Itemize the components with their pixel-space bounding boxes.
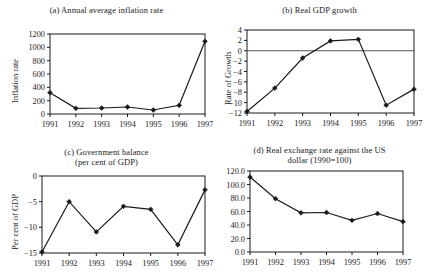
panel-a-inflation-rate: (a) Annual average inflation rate Inflat… bbox=[0, 0, 213, 138]
svg-text:1994: 1994 bbox=[322, 119, 339, 128]
svg-text:400: 400 bbox=[33, 83, 45, 92]
svg-text:−5: −5 bbox=[28, 198, 37, 207]
svg-text:1996: 1996 bbox=[369, 258, 386, 267]
panel-c-plot: −15−10−501991199219931994199519961997 bbox=[0, 138, 213, 276]
svg-text:60.0: 60.0 bbox=[230, 208, 245, 217]
svg-text:1995: 1995 bbox=[145, 120, 162, 129]
svg-text:1993: 1993 bbox=[294, 119, 311, 128]
svg-text:1993: 1993 bbox=[88, 259, 105, 268]
svg-text:1995: 1995 bbox=[350, 119, 367, 128]
svg-text:20.0: 20.0 bbox=[230, 235, 245, 244]
svg-text:−4: −4 bbox=[233, 68, 243, 77]
panel-b-plot: −12−10−8−6−4−202419911992199319941995199… bbox=[213, 0, 426, 138]
svg-text:1991: 1991 bbox=[239, 119, 256, 128]
svg-text:−8: −8 bbox=[233, 88, 242, 97]
svg-text:1993: 1993 bbox=[293, 258, 310, 267]
svg-text:1997: 1997 bbox=[197, 120, 213, 129]
panel-a-plot: 0200400600800100012001991199219931994199… bbox=[0, 0, 213, 138]
svg-text:40.0: 40.0 bbox=[230, 221, 245, 230]
svg-text:1992: 1992 bbox=[267, 258, 284, 267]
svg-text:1991: 1991 bbox=[242, 258, 259, 267]
svg-text:1997: 1997 bbox=[395, 258, 412, 267]
svg-text:1995: 1995 bbox=[142, 259, 159, 268]
svg-text:1997: 1997 bbox=[406, 119, 423, 128]
svg-text:4: 4 bbox=[238, 26, 243, 35]
svg-text:1000: 1000 bbox=[28, 43, 45, 52]
svg-text:0: 0 bbox=[238, 47, 242, 56]
svg-text:−6: −6 bbox=[233, 78, 242, 87]
svg-text:1996: 1996 bbox=[171, 120, 188, 129]
svg-text:200: 200 bbox=[33, 97, 45, 106]
svg-text:0: 0 bbox=[33, 172, 37, 181]
svg-text:1997: 1997 bbox=[197, 259, 213, 268]
svg-text:1991: 1991 bbox=[42, 120, 59, 129]
svg-text:−10: −10 bbox=[24, 223, 37, 232]
svg-text:−12: −12 bbox=[229, 109, 242, 118]
svg-text:80.0: 80.0 bbox=[230, 194, 245, 203]
svg-text:0: 0 bbox=[41, 110, 45, 119]
svg-text:1991: 1991 bbox=[34, 259, 51, 268]
svg-text:1995: 1995 bbox=[344, 258, 361, 267]
multi-panel-figure: (a) Annual average inflation rate Inflat… bbox=[0, 0, 426, 276]
panel-d-real-exchange-rate: (d) Real exchange rate against the US do… bbox=[213, 138, 426, 276]
svg-text:2: 2 bbox=[238, 36, 242, 45]
svg-text:600: 600 bbox=[33, 70, 45, 79]
svg-text:−10: −10 bbox=[229, 99, 242, 108]
svg-text:1996: 1996 bbox=[170, 259, 187, 268]
svg-text:1993: 1993 bbox=[93, 120, 110, 129]
svg-text:1992: 1992 bbox=[61, 259, 78, 268]
svg-text:1994: 1994 bbox=[119, 120, 136, 129]
svg-text:−2: −2 bbox=[233, 57, 242, 66]
svg-text:1200: 1200 bbox=[28, 30, 45, 39]
panel-b-gdp-growth: (b) Real GDP growth Rate of Growth −12−1… bbox=[213, 0, 426, 138]
svg-text:1992: 1992 bbox=[68, 120, 85, 129]
svg-text:0.0: 0.0 bbox=[235, 248, 245, 257]
svg-text:100.0: 100.0 bbox=[226, 181, 245, 190]
svg-text:1992: 1992 bbox=[267, 119, 284, 128]
svg-text:1994: 1994 bbox=[115, 259, 132, 268]
panel-c-government-balance: (c) Government balance (per cent of GDP)… bbox=[0, 138, 213, 276]
svg-text:1996: 1996 bbox=[378, 119, 395, 128]
svg-text:1994: 1994 bbox=[318, 258, 335, 267]
svg-text:−15: −15 bbox=[24, 249, 37, 258]
svg-text:120.0: 120.0 bbox=[226, 167, 245, 176]
panel-d-plot: 0.020.040.060.080.0100.0120.019911992199… bbox=[213, 138, 426, 276]
svg-text:800: 800 bbox=[33, 57, 45, 66]
